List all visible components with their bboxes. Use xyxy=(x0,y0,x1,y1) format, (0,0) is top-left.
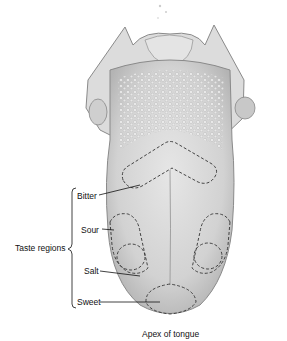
salt-label: Salt xyxy=(84,267,99,276)
taste-regions-brace xyxy=(68,188,76,308)
top-speckle xyxy=(157,5,167,19)
sour-label: Sour xyxy=(81,226,99,235)
apex-caption: Apex of tongue xyxy=(142,330,199,339)
median-groove xyxy=(170,170,171,285)
taste-regions-label: Taste regions xyxy=(15,244,66,253)
bitter-label: Bitter xyxy=(77,192,97,201)
left-tonsil xyxy=(89,99,107,125)
right-tonsil xyxy=(235,97,255,119)
tongue-diagram xyxy=(0,0,287,341)
sweet-label: Sweet xyxy=(77,298,101,307)
